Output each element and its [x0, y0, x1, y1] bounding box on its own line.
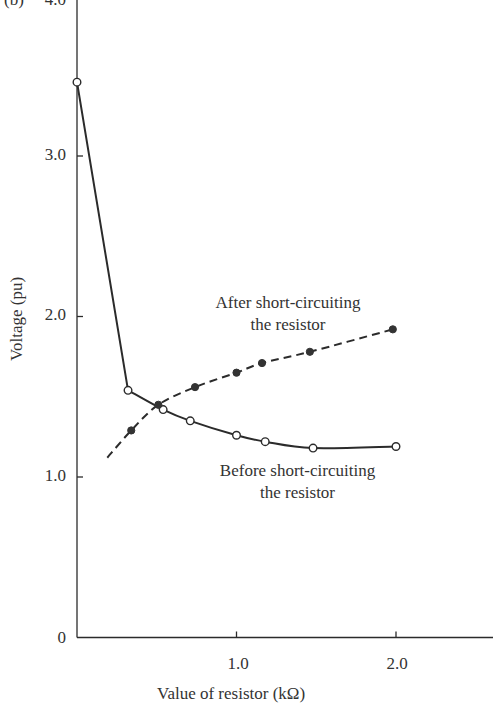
annotation-after: After short-circuiting the resistor [178, 292, 398, 336]
filled-circle-marker [155, 401, 162, 408]
x-tick-label-2: 2.0 [377, 654, 417, 674]
y-tick-label-3: 3.0 [26, 145, 66, 165]
filled-circle-marker [258, 359, 265, 366]
panel-label: (b) [4, 0, 24, 10]
series-group [73, 78, 400, 457]
open-circle-marker [73, 78, 81, 86]
chart-canvas [0, 0, 498, 711]
filled-circle-marker [233, 369, 240, 376]
y-tick-label-1: 1.0 [26, 466, 66, 486]
annotation-after-line1: After short-circuiting [178, 292, 398, 314]
x-tick-label-1: 1.0 [218, 654, 258, 674]
open-circle-marker [233, 431, 241, 439]
open-circle-marker [124, 387, 132, 395]
x-axis-label: Value of resistor (kΩ) [157, 684, 305, 704]
filled-circle-marker [306, 348, 313, 355]
filled-circle-marker [128, 427, 135, 434]
open-circle-marker [392, 443, 400, 451]
y-axis-label: Voltage (pu) [7, 269, 27, 369]
annotation-before-line2: the resistor [185, 482, 410, 504]
annotation-before: Before short-circuiting the resistor [185, 460, 410, 504]
y-tick-label-0: 0 [26, 628, 66, 648]
open-circle-marker [261, 438, 269, 446]
annotation-before-line1: Before short-circuiting [185, 460, 410, 482]
y-tick-label-2: 2.0 [26, 305, 66, 325]
filled-circle-marker [191, 384, 198, 391]
y-tick-label-4: 4.0 [26, 0, 66, 10]
open-circle-marker [309, 444, 317, 452]
open-circle-marker [186, 417, 194, 425]
annotation-after-line2: the resistor [178, 314, 398, 336]
